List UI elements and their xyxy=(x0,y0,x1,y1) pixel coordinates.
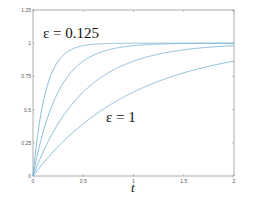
x-tick-label: 2 xyxy=(233,178,236,184)
x-tick-label: 0.5 xyxy=(80,178,87,184)
x-axis-label: t xyxy=(131,180,135,195)
y-tick-label: 0.25 xyxy=(21,140,31,146)
y-tick-label: 0.75 xyxy=(21,73,31,79)
y-tick-label: 1 xyxy=(28,40,31,46)
chart: 00.511.5200.250.50.7511.25 ε = 0.125 ε =… xyxy=(0,0,253,200)
x-tick-label: 1.5 xyxy=(180,178,187,184)
y-tick-label: 0.5 xyxy=(24,107,31,113)
annotation-eps-small: ε = 0.125 xyxy=(43,25,99,41)
y-tick-label: 0 xyxy=(28,173,31,179)
annotation-eps-large: ε = 1 xyxy=(106,109,136,125)
x-tick-label: 0 xyxy=(32,178,35,184)
y-tick-label: 1.25 xyxy=(21,7,31,13)
